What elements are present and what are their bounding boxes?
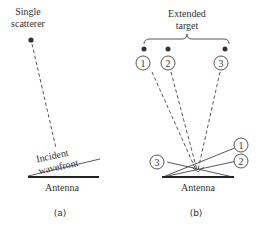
scatterer-marker-1-label: 1 bbox=[141, 58, 146, 69]
target-label-line1: Extended bbox=[168, 8, 206, 19]
extended-target-brace bbox=[144, 34, 229, 44]
scatterer-dot-1 bbox=[142, 47, 147, 52]
panel-b: Extended target 1 2 3 1 2 3 A bbox=[136, 8, 248, 218]
wavefront-marker-1-label: 1 bbox=[239, 140, 244, 151]
scatterer-dot-3 bbox=[223, 47, 228, 52]
scatter-ray bbox=[32, 44, 56, 148]
ray-2 bbox=[171, 72, 197, 170]
diagram-figure: Single scatterer Incident wavefront Ante… bbox=[0, 0, 261, 230]
scatterer-dot-2 bbox=[166, 47, 171, 52]
scatterer-marker-2-label: 2 bbox=[166, 58, 171, 69]
wavefront-marker-3-label: 3 bbox=[155, 157, 160, 168]
caption-b: (b) bbox=[190, 208, 203, 218]
target-label-line2: target bbox=[176, 20, 199, 31]
scatterer-dot bbox=[28, 37, 33, 42]
antenna-label-b: Antenna bbox=[181, 182, 215, 193]
panel-a: Single scatterer Incident wavefront Ante… bbox=[11, 6, 100, 218]
caption-a: (a) bbox=[54, 208, 67, 218]
antenna-label-a: Antenna bbox=[45, 182, 79, 193]
scatterer-marker-3-label: 3 bbox=[219, 58, 224, 69]
wavefront-1 bbox=[163, 147, 237, 177]
scatterer-label-line2: scatterer bbox=[11, 18, 46, 29]
wavefront-marker-2-label: 2 bbox=[239, 156, 244, 167]
scatterer-label-line1: Single bbox=[15, 6, 41, 17]
